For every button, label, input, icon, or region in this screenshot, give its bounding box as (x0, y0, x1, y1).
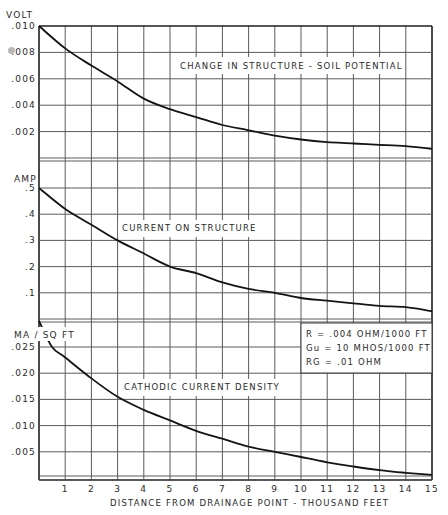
y-tick-label: .020 (11, 368, 36, 378)
y-tick-label: .025 (11, 342, 36, 352)
middle-yticks: .5.4.3.2.1 (25, 183, 36, 298)
x-tick-label: 11 (320, 484, 334, 494)
parameter-gu: Gu = 10 MHOS/1000 FT (306, 343, 431, 353)
y-tick-label: .010 (11, 421, 36, 431)
y-tick-label: .1 (25, 288, 36, 298)
grid (39, 26, 432, 480)
x-tick-label: 1 (62, 484, 69, 494)
top-ylabel: VOLT (6, 10, 33, 20)
curve-top (39, 26, 432, 149)
middle-annotation: CURRENT ON STRUCTURE (122, 223, 257, 233)
bottom-ylabel: MA / SQ FT (14, 330, 75, 340)
x-tick-label: 13 (373, 484, 387, 494)
x-tick-label: 14 (399, 484, 413, 494)
chart-canvas: VOLT .010.008.006.004.002 CHANGE IN STRU… (0, 0, 448, 515)
bottom-annotation: CATHODIC CURRENT DENSITY (124, 382, 280, 392)
x-tick-label: 5 (167, 484, 174, 494)
y-tick-label: .005 (11, 447, 36, 457)
x-tick-label: 7 (219, 484, 226, 494)
x-tick-label: 10 (294, 484, 308, 494)
curves (39, 26, 432, 475)
x-axis-label: DISTANCE FROM DRAINAGE POINT - THOUSAND … (110, 498, 389, 508)
x-tick-label: 12 (346, 484, 360, 494)
y-tick-label: .3 (25, 235, 36, 245)
y-tick-label: .015 (11, 394, 36, 404)
parameters-box: R = .004 OHM/1000 FT Gu = 10 MHOS/1000 F… (301, 323, 432, 373)
top-yticks: .010.008.006.004.002 (11, 21, 36, 137)
y-tick-label: .010 (11, 21, 36, 31)
parameter-rg: RG = .01 OHM (306, 357, 382, 367)
x-tick-label: 4 (140, 484, 147, 494)
x-tick-label: 15 (425, 484, 439, 494)
y-tick-label: .2 (25, 262, 36, 272)
punch-hole-mark (8, 47, 15, 54)
attenuation-chart: VOLT .010.008.006.004.002 CHANGE IN STRU… (0, 0, 448, 515)
x-tick-label: 6 (193, 484, 200, 494)
top-annotation: CHANGE IN STRUCTURE - SOIL POTENTIAL (180, 61, 403, 71)
y-tick-label: .002 (11, 127, 36, 137)
x-tick-labels: 123456789101112131415 (62, 484, 439, 494)
x-tick-label: 8 (245, 484, 252, 494)
bottom-yticks: .025.020.015.010.005 (11, 342, 36, 457)
parameter-r: R = .004 OHM/1000 FT (306, 329, 428, 339)
y-tick-label: .5 (25, 183, 36, 193)
x-tick-label: 2 (88, 484, 95, 494)
y-tick-label: .006 (11, 74, 36, 84)
y-tick-label: .004 (11, 100, 36, 110)
x-tick-label: 9 (271, 484, 278, 494)
x-tick-label: 3 (114, 484, 121, 494)
y-tick-label: .4 (25, 209, 36, 219)
